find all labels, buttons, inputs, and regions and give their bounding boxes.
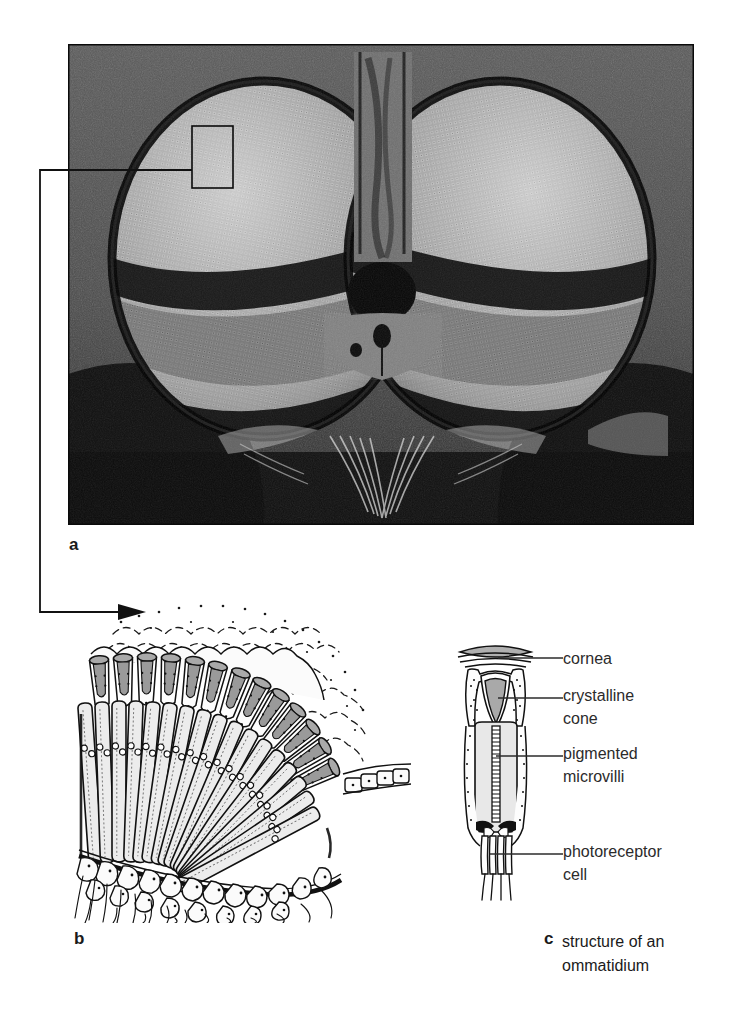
- panel-a-letter: a: [69, 536, 78, 553]
- label-cornea: cornea: [563, 647, 612, 670]
- panel-b-letter: b: [74, 930, 84, 947]
- panel-c-caption: structure of an ommatidium: [562, 930, 741, 978]
- label-photoreceptor-cell: photoreceptor cell: [563, 840, 662, 886]
- figure-compound-eye: a: [0, 0, 741, 1019]
- label-crystalline-cone: crystalline cone: [563, 684, 634, 730]
- panel-b-ommatidia-array: [55, 588, 455, 923]
- label-pigmented-microvilli: pigmented microvilli: [563, 742, 638, 788]
- panel-c-letter: c: [544, 930, 553, 947]
- panel-c-ommatidium: [438, 630, 553, 902]
- panel-a-micrograph: [68, 44, 694, 525]
